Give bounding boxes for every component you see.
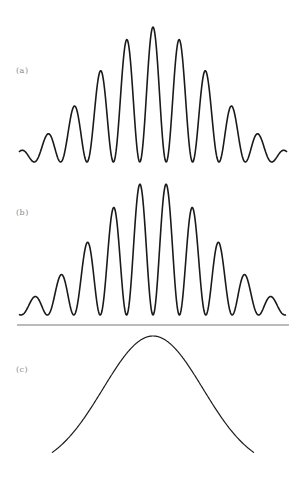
fringe-curve-a: [19, 27, 287, 162]
envelope-curve-c: [52, 336, 254, 453]
panel-label-b: (b): [16, 208, 29, 217]
interference-figure: (a) (b) (c): [0, 0, 305, 482]
fringe-curve-b: [19, 184, 286, 315]
panel-label-c: (c): [16, 365, 28, 374]
panel-label-a: (a): [16, 66, 29, 75]
fringe-plots: [0, 0, 305, 482]
